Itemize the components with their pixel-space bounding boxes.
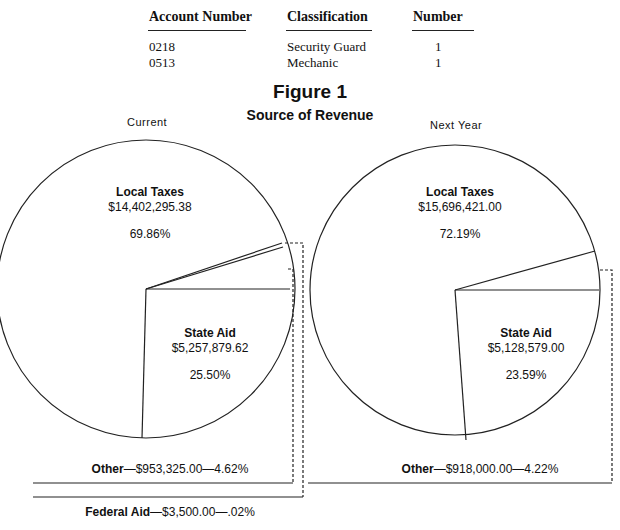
slice-divider bbox=[455, 251, 595, 290]
slice-local-taxes-next-year: Local Taxes $15,696,421.00 72.19% bbox=[400, 185, 520, 242]
slice-amount: $5,257,879.62 bbox=[172, 341, 249, 355]
slice-state-aid-current: State Aid $5,257,879.62 25.50% bbox=[150, 326, 270, 383]
slice-name: Local Taxes bbox=[426, 185, 494, 199]
slice-state-aid-next-year: State Aid $5,128,579.00 23.59% bbox=[466, 326, 586, 383]
slice-divider bbox=[455, 290, 466, 440]
callout-name: Other bbox=[402, 462, 434, 476]
slice-percent: 25.50% bbox=[150, 368, 270, 383]
slice-amount: $14,402,295.38 bbox=[108, 200, 191, 214]
slice-divider bbox=[146, 243, 282, 289]
callout-other-current: Other—$953,325.00—4.62% bbox=[60, 462, 280, 476]
callout-value: —$953,325.00—4.62% bbox=[124, 462, 249, 476]
slice-name: Local Taxes bbox=[116, 185, 184, 199]
callout-name: Other bbox=[92, 462, 124, 476]
slice-name: State Aid bbox=[500, 326, 552, 340]
pie-charts bbox=[0, 0, 620, 530]
callout-federal-aid-current: Federal Aid—$3,500.00—.02% bbox=[55, 505, 285, 519]
slice-amount: $15,696,421.00 bbox=[418, 200, 501, 214]
slice-name: State Aid bbox=[184, 326, 236, 340]
callout-value: —$918,000.00—4.22% bbox=[434, 462, 559, 476]
slice-amount: $5,128,579.00 bbox=[488, 341, 565, 355]
slice-percent: 69.86% bbox=[90, 227, 210, 242]
callout-other-next-year: Other—$918,000.00—4.22% bbox=[370, 462, 590, 476]
callout-value: —$3,500.00—.02% bbox=[150, 505, 255, 519]
slice-percent: 72.19% bbox=[400, 227, 520, 242]
slice-divider bbox=[146, 247, 283, 289]
other-leader bbox=[600, 270, 612, 483]
callout-name: Federal Aid bbox=[85, 505, 150, 519]
slice-percent: 23.59% bbox=[466, 368, 586, 383]
other-leader bbox=[288, 269, 293, 483]
slice-divider bbox=[142, 289, 146, 438]
slice-local-taxes-current: Local Taxes $14,402,295.38 69.86% bbox=[90, 185, 210, 242]
federal-aid-leader bbox=[285, 243, 303, 497]
